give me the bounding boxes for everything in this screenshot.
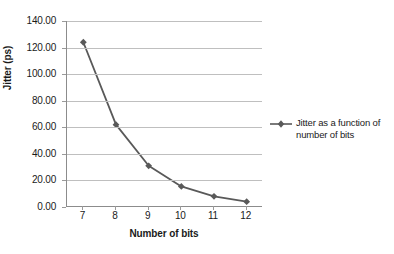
legend-label-jitter: Jitter as a function of number of bits (296, 117, 392, 141)
x-axis-ticks: 789101112 (66, 210, 262, 226)
x-tick-mark (246, 206, 247, 210)
y-tick-label: 100.00 (27, 69, 56, 79)
y-tick-label: 20.00 (32, 175, 56, 185)
gridline (67, 154, 262, 155)
data-point-marker (80, 39, 87, 46)
x-axis-title: Number of bits (66, 228, 262, 239)
x-tick-label: 12 (234, 210, 258, 222)
x-tick-label: 8 (103, 210, 127, 222)
data-point-marker (243, 198, 250, 205)
gridline (67, 180, 262, 181)
gridline (67, 21, 262, 22)
y-axis-ticks: 140.00120.00100.0080.0060.0040.0020.000.… (0, 0, 62, 254)
y-tick-mark (62, 207, 66, 208)
x-tick-label: 9 (136, 210, 160, 222)
chart-container: Jitter (ps) 140.00120.00100.0080.0060.00… (0, 0, 394, 254)
x-tick-label: 10 (168, 210, 192, 222)
y-tick-label: 120.00 (27, 43, 56, 53)
chart-legend: Jitter as a function of number of bits (270, 117, 392, 141)
x-tick-mark (82, 206, 83, 210)
series-polyline (83, 42, 246, 201)
gridline (67, 74, 262, 75)
x-tick-label: 11 (201, 210, 225, 222)
gridline (67, 101, 262, 102)
series-line-jitter (67, 21, 263, 207)
legend-marker-icon (270, 118, 292, 130)
y-tick-label: 140.00 (27, 16, 56, 26)
y-tick-label: 60.00 (32, 122, 56, 132)
y-tick-label: 40.00 (32, 149, 56, 159)
gridline (67, 127, 262, 128)
x-tick-mark (213, 206, 214, 210)
y-tick-label: 80.00 (32, 96, 56, 106)
x-tick-mark (148, 206, 149, 210)
x-tick-mark (180, 206, 181, 210)
plot-area (66, 21, 262, 207)
gridline (67, 48, 262, 49)
data-point-marker (211, 193, 218, 200)
x-tick-label: 7 (70, 210, 94, 222)
y-tick-label: 0.00 (37, 202, 56, 212)
x-tick-mark (115, 206, 116, 210)
